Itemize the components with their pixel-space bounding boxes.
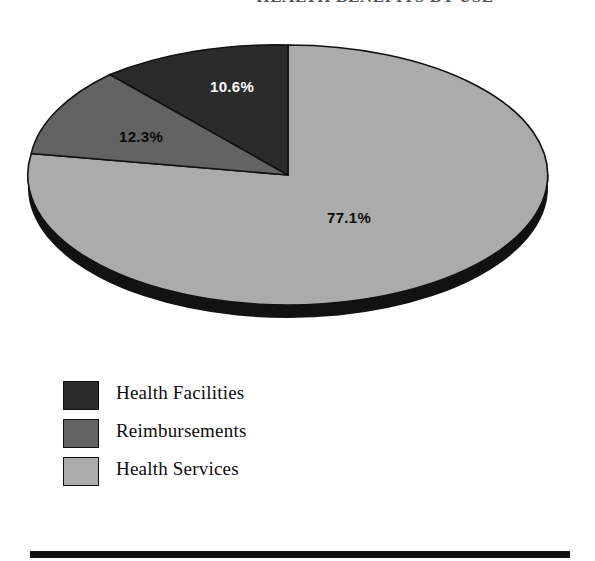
pie-label-health-services: 77.1% [327, 209, 371, 226]
legend-swatch-health-services [63, 457, 99, 486]
legend-label-reimbursements: Reimbursements [116, 420, 247, 442]
pie-label-reimbursements: 12.3% [119, 128, 163, 145]
legend-swatch-health-facilities [63, 381, 99, 410]
legend-item-reimbursements: Reimbursements [63, 419, 423, 457]
legend-label-health-facilities: Health Facilities [116, 382, 244, 404]
bottom-divider [30, 551, 570, 558]
pie-label-health-facilities: 10.6% [210, 78, 254, 95]
legend-item-health-services: Health Services [63, 457, 423, 495]
legend-label-health-services: Health Services [116, 458, 239, 480]
pie-chart-svg [0, 0, 595, 340]
pie-chart: 10.6% 12.3% 77.1% [0, 0, 595, 340]
chart-legend: Health Facilities Reimbursements Health … [63, 381, 423, 495]
pie-slices [28, 45, 548, 305]
legend-swatch-reimbursements [63, 419, 99, 448]
legend-item-health-facilities: Health Facilities [63, 381, 423, 419]
